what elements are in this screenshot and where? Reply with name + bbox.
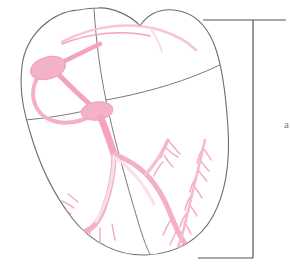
figure-root: a <box>0 0 292 266</box>
heart-outline-path <box>21 8 228 255</box>
heart-outline-group <box>21 8 228 255</box>
heart-conduction-diagram <box>0 0 292 266</box>
bracket-label: a <box>284 118 292 131</box>
